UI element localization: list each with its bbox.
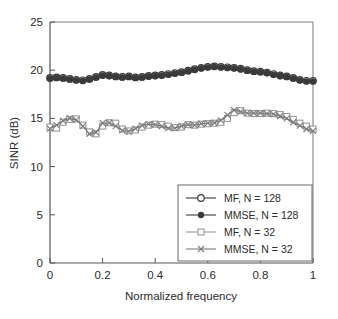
- y-tick-label: 25: [30, 16, 43, 28]
- x-tick-label: 0: [47, 269, 53, 281]
- data-point-marker-filled-circle: [245, 68, 250, 73]
- data-point-marker-filled-circle: [251, 69, 256, 74]
- legend-label: MMSE, N = 128: [224, 209, 299, 221]
- y-tick-label: 10: [30, 161, 43, 173]
- data-point-marker-filled-circle: [199, 66, 204, 71]
- y-tick-label: 20: [30, 64, 43, 76]
- data-point-marker-filled-circle: [205, 65, 210, 70]
- data-point-marker-filled-circle: [284, 74, 289, 79]
- data-point-marker-filled-circle: [146, 74, 151, 79]
- data-point-marker-filled-circle: [218, 65, 223, 70]
- y-tick-label: 5: [37, 209, 43, 221]
- data-point-marker-filled-circle: [271, 72, 276, 77]
- data-point-marker-filled-circle: [297, 78, 302, 83]
- x-tick-label: 0.2: [95, 269, 111, 281]
- data-point-marker-filled-circle: [93, 75, 98, 80]
- data-point-marker-filled-circle: [153, 73, 158, 78]
- chart-figure: 0510152025 00.20.40.60.81 SINR (dB) Norm…: [0, 0, 338, 319]
- data-point-marker-filled-circle: [291, 76, 296, 81]
- x-tick-label: 0.4: [147, 269, 164, 281]
- data-point-marker-filled-circle: [192, 67, 197, 72]
- legend-label: MF, N = 128: [224, 192, 281, 204]
- data-point-marker-filled-circle: [225, 65, 230, 70]
- data-point-marker-filled-circle: [54, 75, 59, 80]
- x-tick-label: 1: [310, 269, 316, 281]
- y-tick-label: 15: [30, 112, 43, 124]
- data-point-marker-filled-circle: [278, 73, 283, 78]
- data-point-marker-filled-circle: [113, 74, 118, 79]
- data-point-marker-filled-circle: [67, 77, 72, 82]
- data-point-marker-filled-circle: [304, 79, 309, 84]
- data-point-marker-filled-circle: [47, 76, 52, 81]
- data-point-marker-filled-circle: [139, 75, 144, 80]
- data-point-marker-filled-circle: [120, 75, 125, 80]
- data-point-marker-filled-circle: [87, 77, 92, 82]
- data-point-marker-filled-circle: [310, 79, 315, 84]
- legend-label: MMSE, N = 32: [224, 243, 293, 255]
- data-point-marker-filled-circle: [185, 69, 190, 74]
- data-point-marker-filled-circle: [212, 64, 217, 69]
- data-point-marker-filled-circle: [232, 66, 237, 71]
- data-point-marker-filled-circle: [258, 70, 263, 75]
- data-point-marker-filled-circle: [61, 76, 66, 81]
- data-point-marker-filled-circle: [179, 70, 184, 75]
- data-point-marker-filled-circle: [74, 78, 79, 83]
- x-tick-label: 0.6: [200, 269, 216, 281]
- data-point-marker-open-circle: [198, 195, 205, 202]
- y-tick-label: 0: [37, 257, 43, 269]
- data-point-marker-filled-circle: [80, 78, 85, 83]
- data-point-marker-filled-circle: [126, 74, 131, 79]
- data-point-marker-filled-circle: [264, 70, 269, 75]
- data-point-marker-filled-circle: [133, 75, 138, 80]
- data-point-marker-filled-circle: [166, 72, 171, 77]
- data-point-marker-filled-circle: [107, 73, 112, 78]
- data-point-marker-open-square: [198, 229, 204, 235]
- x-axis-title: Normalized frequency: [125, 290, 237, 302]
- data-point-marker-filled-circle: [198, 212, 203, 217]
- data-point-marker-filled-circle: [238, 67, 243, 72]
- sinr-vs-normalized-frequency-chart: 0510152025 00.20.40.60.81 SINR (dB) Norm…: [0, 0, 338, 319]
- chart-legend[interactable]: MF, N = 128MMSE, N = 128MF, N = 32MMSE, …: [178, 185, 312, 261]
- data-point-marker-open-square: [80, 122, 86, 128]
- data-point-marker-filled-circle: [100, 73, 105, 78]
- x-tick-label: 0.8: [252, 269, 268, 281]
- legend-label: MF, N = 32: [224, 226, 275, 238]
- data-point-marker-filled-circle: [159, 73, 164, 78]
- y-axis-title: SINR (dB): [8, 117, 20, 170]
- data-point-marker-filled-circle: [172, 71, 177, 76]
